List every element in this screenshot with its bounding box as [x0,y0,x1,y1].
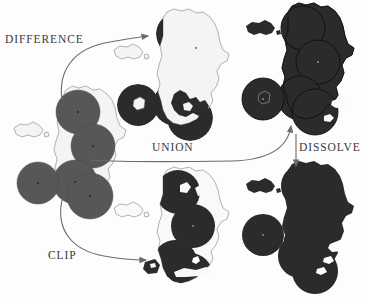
circle-center-dot [89,195,91,197]
circle-center-dot [74,181,76,183]
dissolve-island-filled [246,178,281,193]
overlay-operations-diagram: DIFFERENCE UNION CLIP DISSOLVE [0,0,366,304]
union-circle-4 [292,89,338,135]
union-result-panel [242,3,354,135]
difference-result-panel [114,9,229,141]
operation-label-union: UNION [152,141,194,153]
map-center-dot [195,47,197,49]
operation-label-difference: DIFFERENCE [5,33,84,45]
operation-label-dissolve: DISSOLVE [299,141,361,153]
source-island-outline [14,122,49,137]
clip-island-outline [114,202,149,217]
operation-label-clip: CLIP [48,249,77,261]
circle-center-dot [92,145,94,147]
union-island-filled [246,20,281,35]
clip-result-panel [114,167,229,299]
source-layer-panel [14,86,126,219]
circle-center-dot [77,111,79,113]
circle-center-dot [37,182,39,184]
difference-island-outline [114,44,149,59]
dissolve-result-panel [242,161,354,294]
